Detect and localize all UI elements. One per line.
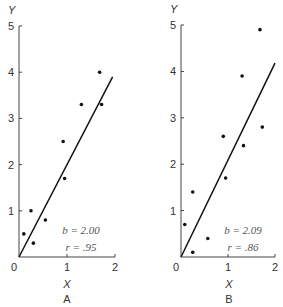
panel-label: B xyxy=(225,293,232,305)
data-point xyxy=(261,125,265,129)
data-point xyxy=(224,176,228,180)
data-point xyxy=(240,74,244,78)
scatter-chart-figure: 12345012YXAb = 2.00r = .95 12345012YXBb … xyxy=(0,0,283,307)
data-point xyxy=(44,218,48,222)
y-tick-label: 4 xyxy=(8,66,14,78)
data-point xyxy=(29,209,33,213)
data-point xyxy=(191,190,195,194)
correlation-annotation: r = .95 xyxy=(66,241,97,253)
y-axis-label: Y xyxy=(8,4,16,16)
data-point xyxy=(22,232,26,236)
panel-b: 12345012YXBb = 2.09r = .86 xyxy=(170,3,278,305)
x-axis-label: X xyxy=(224,278,233,290)
data-point xyxy=(32,241,36,245)
y-tick-label: 1 xyxy=(170,205,176,217)
x-axis-label: X xyxy=(62,278,71,290)
x-tick-label: 1 xyxy=(225,261,231,273)
y-axis-label: Y xyxy=(170,3,178,15)
data-point xyxy=(258,28,262,32)
x-tick-label: 1 xyxy=(64,261,70,273)
y-tick-label: 1 xyxy=(8,205,14,217)
data-point xyxy=(98,70,102,74)
y-tick-label: 4 xyxy=(170,65,176,77)
x-tick-label: 2 xyxy=(272,261,278,273)
correlation-annotation: r = .86 xyxy=(228,241,259,253)
y-tick-label: 2 xyxy=(170,158,176,170)
panel-a: 12345012YXAb = 2.00r = .95 xyxy=(8,4,118,305)
x-tick-label: 0 xyxy=(11,261,17,273)
y-tick-label: 5 xyxy=(8,20,14,32)
data-point xyxy=(183,223,187,227)
data-point xyxy=(63,177,67,181)
data-point xyxy=(206,237,210,241)
y-tick-label: 5 xyxy=(170,19,176,31)
data-point xyxy=(100,103,104,107)
data-point xyxy=(222,135,226,139)
y-tick-label: 2 xyxy=(8,159,14,171)
data-point xyxy=(242,144,246,148)
data-point xyxy=(191,251,195,255)
data-point xyxy=(61,140,65,144)
x-tick-label: 0 xyxy=(173,261,179,273)
y-tick-label: 3 xyxy=(8,112,14,124)
y-tick-label: 3 xyxy=(170,112,176,124)
data-point xyxy=(80,103,84,107)
panel-label: A xyxy=(63,293,71,305)
x-tick-label: 2 xyxy=(112,261,118,273)
slope-annotation: b = 2.09 xyxy=(224,224,262,236)
slope-annotation: b = 2.00 xyxy=(62,224,100,236)
